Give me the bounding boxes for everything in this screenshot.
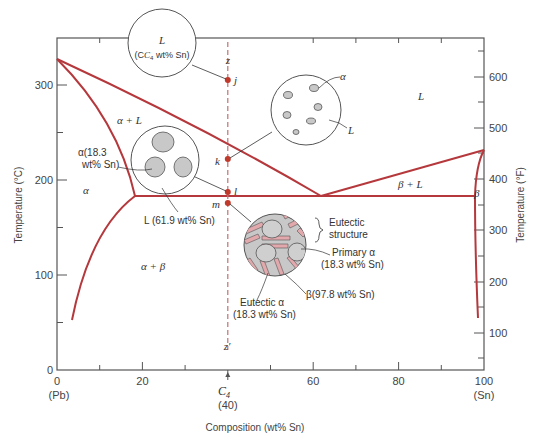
label-k: k (215, 155, 221, 167)
primary-alpha-line2: (18.3 wt% Sn) (321, 259, 384, 270)
microstructure-j: L (CC4 wt% Sn) (128, 9, 226, 79)
c4-value: (40) (218, 399, 238, 411)
region-alpha: α (83, 184, 89, 196)
circle-k-alpha: α (340, 70, 346, 82)
region-L: L (417, 90, 424, 102)
label-l: l (234, 185, 237, 197)
x-tick-100: 100 (475, 375, 493, 387)
y-left-axis-title: Temperature (°C) (13, 167, 24, 244)
circle-l-liquid: L (61.9 wt% Sn) (144, 215, 215, 226)
point-l (225, 189, 231, 195)
sn-label: (Sn) (474, 389, 495, 401)
x-axis-title: Composition (wt% Sn) (206, 422, 305, 433)
eutectic-alpha-line2: (18.3 wt% Sn) (233, 309, 296, 320)
y-right-tick-500: 500 (489, 122, 507, 134)
y-left-tick-0: 0 (47, 364, 53, 376)
label-j: j (232, 74, 237, 86)
solvus-alpha (72, 196, 135, 320)
point-j (225, 77, 231, 83)
circle-j-L: L (158, 34, 165, 46)
y-left-tick-200: 200 (35, 174, 53, 186)
phase-diagram: 0 20 60 80 100 (Pb) (Sn) 0 100 200 300 1… (0, 0, 538, 441)
primary-alpha-line1: Primary α (332, 247, 375, 258)
eutectic-structure-line2: structure (329, 229, 368, 240)
region-beta: β (473, 187, 480, 199)
label-m: m (212, 198, 220, 210)
svg-text:(CC4 wt% Sn): (CC4 wt% Sn) (135, 50, 190, 61)
beta-composition: β(97.8 wt% Sn) (306, 289, 375, 300)
circle-k-L: L (347, 124, 354, 136)
plot-frame (57, 38, 484, 370)
x-tick-0: 0 (54, 375, 60, 387)
y-right-tick-200: 200 (489, 276, 507, 288)
y-left-ticks (57, 85, 67, 323)
eutectic-alpha-line1: Eutectic α (240, 297, 284, 308)
label-z-prime: z′ (223, 340, 231, 352)
y-right-tick-400: 400 (489, 173, 507, 185)
x-tick-60: 60 (307, 375, 319, 387)
point-k (225, 156, 231, 162)
point-m (225, 200, 231, 206)
solvus-beta (475, 196, 478, 318)
y-left-tick-100: 100 (35, 269, 53, 281)
region-alpha-beta: α + β (141, 260, 166, 272)
pb-label: (Pb) (49, 389, 70, 401)
x-axis-ticks (100, 38, 442, 370)
y-right-tick-600: 600 (489, 71, 507, 83)
circle-l-alpha-line1: α(18.3 (78, 147, 107, 158)
x-tick-80: 80 (392, 375, 404, 387)
y-right-tick-100: 100 (489, 327, 507, 339)
y-right-axis-title: Temperature (°F) (515, 167, 526, 243)
microstructure-k: α L (230, 70, 354, 158)
label-z: z (225, 54, 231, 66)
solidus-alpha (57, 59, 135, 196)
eutectic-structure-line1: Eutectic (329, 217, 365, 228)
y-left-tick-300: 300 (35, 79, 53, 91)
y-right-tick-300: 300 (489, 224, 507, 236)
x-tick-20: 20 (136, 375, 148, 387)
microstructure-m: Eutectic structure Primary α (18.3 wt% S… (230, 204, 384, 320)
circle-l-alpha-line2: wt% Sn) (81, 159, 119, 170)
microstructure-l: α(18.3 wt% Sn) L (61.9 wt% Sn) (78, 126, 226, 226)
svg-text:C4: C4 (218, 384, 230, 400)
c4-marker: C4 (40) (218, 370, 238, 411)
region-alpha-L: α + L (117, 114, 142, 126)
region-beta-L: β + L (397, 178, 423, 190)
